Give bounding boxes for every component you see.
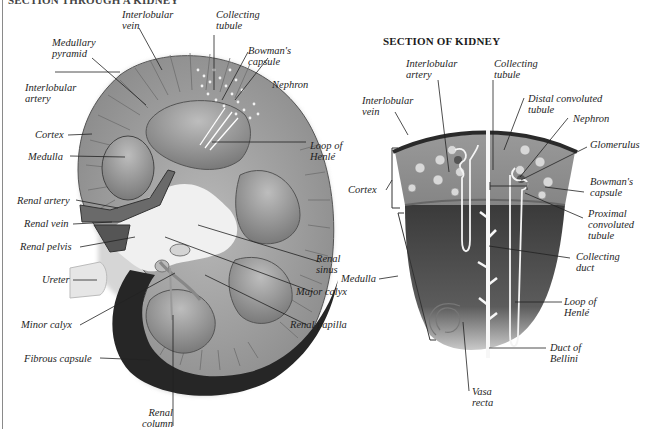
label-nephron-right: Nephron xyxy=(573,113,609,124)
label-renal-pelvis: Renal pelvis xyxy=(20,241,72,252)
label-major-calyx: Major calyx xyxy=(296,286,347,297)
label-distal-convoluted-tubule: Distal convolutedtubule xyxy=(528,93,602,115)
label-bowmans-capsule-right: Bowman'scapsule xyxy=(590,176,633,198)
label-bowmans-capsule: Bowman'scapsule xyxy=(248,45,291,67)
label-minor-calyx: Minor calyx xyxy=(21,319,72,330)
label-renal-sinus: Renalsinus xyxy=(316,253,341,275)
label-renal-column: Renalcolumn xyxy=(142,407,173,429)
label-cortex: Cortex xyxy=(35,129,64,140)
label-medulla-right: Medulla xyxy=(341,273,376,284)
kidney-wedge-section xyxy=(392,130,577,358)
label-renal-papilla: Renal papilla xyxy=(290,319,347,330)
label-medullary-pyramid: Medullarypyramid xyxy=(52,37,96,59)
label-interlobular-artery: Interlobularartery xyxy=(25,82,76,104)
label-collecting-tubule: Collectingtubule xyxy=(216,9,260,31)
label-nephron: Nephron xyxy=(272,79,308,90)
label-duct-of-bellini: Duct ofBellini xyxy=(550,342,581,364)
label-fibrous-capsule: Fibrous capsule xyxy=(24,353,92,364)
label-medulla: Medulla xyxy=(28,151,63,162)
label-vasa-recta: Vasarecta xyxy=(472,386,493,408)
label-collecting-tubule-right: Collectingtubule xyxy=(494,58,538,80)
label-renal-artery: Renal artery xyxy=(17,195,70,206)
label-glomerulus: Glomerulus xyxy=(590,139,640,150)
label-collecting-duct: Collectingduct xyxy=(576,251,620,273)
label-loop-of-henle: Loop ofHenlé xyxy=(310,140,342,162)
label-ureter: Ureter xyxy=(42,274,70,285)
label-interlobular-vein-right: Interlobularvein xyxy=(362,95,413,117)
kidney-cross-section xyxy=(70,53,338,396)
label-interlobular-vein: Interlobularvein xyxy=(122,9,173,31)
label-interlobular-artery-right: Interlobularartery xyxy=(406,58,457,80)
label-renal-vein: Renal vein xyxy=(24,218,69,229)
label-loop-of-henle-right: Loop ofHenlé xyxy=(564,296,596,318)
label-cortex-right: Cortex xyxy=(348,184,377,195)
label-proximal-convoluted-tubule: Proximalconvolutedtubule xyxy=(588,208,634,241)
kidney-illustrations xyxy=(0,0,651,429)
